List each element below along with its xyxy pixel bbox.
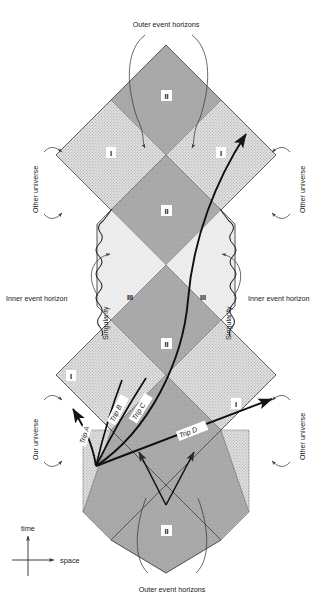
region-label-text: I [110, 149, 112, 158]
singularity-left-label: Singularity [101, 306, 110, 340]
other-universe-top-left-label: Other universe [31, 166, 40, 213]
region-label-I-lower-right: I [231, 398, 241, 409]
outer-event-horizons-top-label: Outer event horizons [133, 20, 200, 29]
other-universe-bottom-right-group: Other universe [298, 413, 307, 460]
region-label-III-right: III [200, 293, 206, 302]
region-label-I-upper-right: I [216, 147, 226, 158]
diagram-canvas: II I I II III III II I I II [0, 0, 333, 601]
inner-event-horizon-right-label: Inner event horizon [248, 294, 310, 303]
singularity-right-group: Singularity [224, 306, 233, 340]
region-label-text: I [70, 372, 72, 381]
region-label-II-top: II [161, 90, 172, 101]
region-label-III-left: III [127, 293, 133, 302]
region-label-text: I [220, 149, 222, 158]
outer-event-horizons-bottom-label: Outer event horizons [139, 585, 206, 594]
region-label-text: I [235, 400, 237, 409]
region-label-text: II [164, 340, 168, 349]
our-universe-bottom-left-label: Our universe [31, 419, 40, 460]
other-universe-top-right-label: Other universe [298, 166, 307, 213]
other-universe-bottom-right-label: Other universe [298, 413, 307, 460]
region-label-II-bottom: II [161, 525, 172, 536]
region-label-text: II [164, 527, 168, 536]
region-label-I-upper-left: I [106, 147, 116, 158]
space-axis-label: space [60, 556, 80, 565]
region-label-text: II [164, 92, 168, 101]
singularity-right-label: Singularity [224, 306, 233, 340]
region-label-II-lower-mid: II [161, 338, 172, 349]
other-universe-top-right-group: Other universe [298, 166, 307, 213]
other-universe-top-left-group: Other universe [31, 166, 40, 213]
penrose-diagram-figure: II I I II III III II I I II [0, 0, 333, 601]
our-universe-bottom-left-group: Our universe [31, 419, 40, 460]
region-label-I-lower-left: I [66, 370, 76, 381]
inner-event-horizon-left-label: Inner event horizon [6, 294, 68, 303]
region-label-text: II [164, 207, 168, 216]
time-axis-label: time [21, 524, 35, 533]
singularity-left-group: Singularity [101, 306, 110, 340]
region-label-II-upper-mid: II [161, 205, 172, 216]
